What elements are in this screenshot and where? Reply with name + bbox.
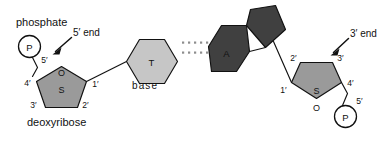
three-prime-end-annotation: 3′ end — [350, 28, 377, 39]
thymine-label: T — [149, 57, 155, 68]
right-glycosidic-bond — [274, 42, 292, 83]
left-oxygen-label: O — [58, 68, 65, 78]
diagram-canvas: P 5′ O S 4′ 3′ 2′ 1′ T A 1′ 2′ 3′ 4′ 5′ … — [0, 0, 389, 142]
left-backbone-bond — [33, 58, 38, 77]
dna-nucleotide-diagram: P 5′ O S 4′ 3′ 2′ 1′ T A 1′ 2′ 3′ 4′ 5′ … — [0, 0, 389, 142]
deoxyribose-annotation: deoxyribose — [27, 116, 86, 128]
adenine-pentagon-ring — [247, 6, 286, 48]
right-phosphate-label: P — [342, 112, 348, 123]
adenine-fusion-bond — [250, 48, 266, 52]
right-oxygen-label: O — [313, 103, 320, 113]
right-sugar-label: S — [313, 86, 319, 96]
left-c3-label: 3′ — [30, 100, 37, 110]
adenine-label: A — [223, 48, 230, 59]
left-c1-label: 1′ — [92, 79, 99, 89]
right-c2-label: 2′ — [290, 53, 297, 63]
phosphate-annotation: phosphate — [16, 16, 67, 28]
left-sugar-label: S — [58, 85, 64, 95]
five-prime-end-annotation: 5′ end — [73, 27, 100, 38]
left-c4-label: 4′ — [24, 78, 31, 88]
base-annotation: base — [132, 80, 158, 91]
right-c4-label: 4′ — [347, 78, 354, 88]
right-c5-label: 5′ — [356, 96, 363, 106]
right-c3-label: 3′ — [337, 53, 344, 63]
right-c1-label: 1′ — [280, 85, 287, 95]
left-c2-label: 2′ — [82, 100, 89, 110]
left-phosphate-label: P — [26, 42, 32, 53]
left-c5-label: 5′ — [41, 55, 48, 65]
five-prime-end-arrow — [53, 38, 72, 55]
